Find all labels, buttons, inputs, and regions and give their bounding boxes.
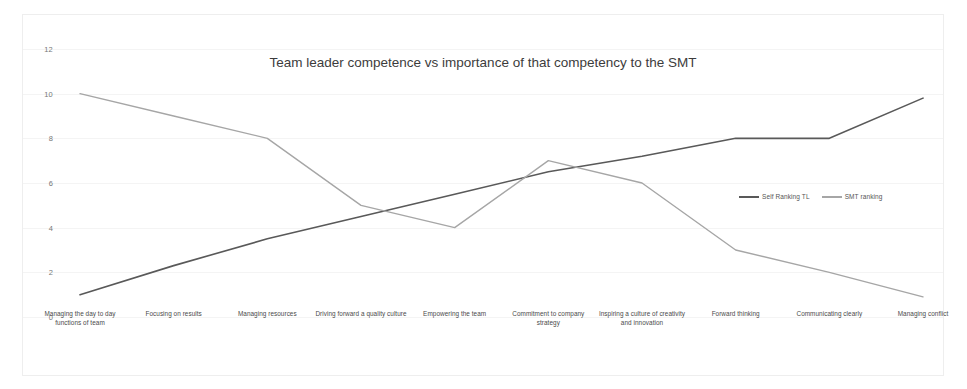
- x-axis-tick-label: Focusing on results: [128, 309, 220, 318]
- x-axis-tick-label: Managing conflict: [877, 309, 967, 318]
- x-axis-tick-label: Driving forward a quality culture: [315, 309, 407, 318]
- legend-item[interactable]: SMT ranking: [822, 193, 883, 200]
- chart-legend: Self Ranking TLSMT ranking: [739, 193, 882, 200]
- x-axis-tick-label: Commitment to company strategy: [502, 309, 594, 327]
- plot-area: 024681012 Team leader competence vs impo…: [23, 15, 943, 375]
- legend-swatch: [739, 196, 759, 198]
- x-axis: Managing the day to day functions of tea…: [23, 309, 943, 369]
- legend-swatch: [822, 196, 842, 198]
- legend-label: SMT ranking: [845, 193, 883, 200]
- x-axis-tick-label: Managing resources: [221, 309, 313, 318]
- chart-card: 024681012 Team leader competence vs impo…: [22, 14, 944, 376]
- x-axis-tick-label: Communicating clearly: [783, 309, 875, 318]
- x-axis-tick-label: Empowering the team: [409, 309, 501, 318]
- x-axis-tick-label: Forward thinking: [690, 309, 782, 318]
- legend-item[interactable]: Self Ranking TL: [739, 193, 810, 200]
- x-axis-tick-label: Managing the day to day functions of tea…: [34, 309, 126, 327]
- legend-label: Self Ranking TL: [762, 193, 810, 200]
- x-axis-tick-label: Inspiring a culture of creativity and in…: [596, 309, 688, 327]
